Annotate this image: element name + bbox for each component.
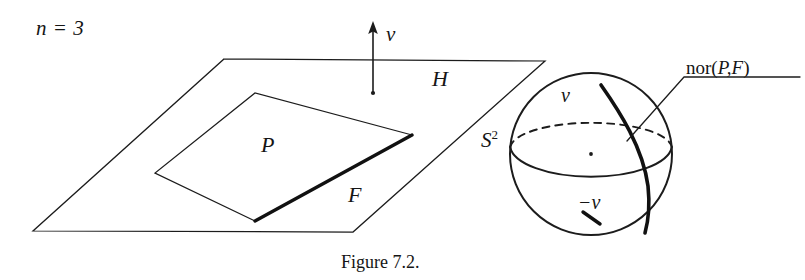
figure-drawing-canvas bbox=[0, 0, 805, 280]
normal-vector-label: v bbox=[386, 24, 395, 45]
sphere-label-exponent: 2 bbox=[492, 127, 499, 142]
figure-caption: Figure 7.2. bbox=[341, 253, 420, 271]
hyperplane-label: H bbox=[432, 68, 448, 90]
sphere-north-pole-label: v bbox=[561, 85, 570, 105]
sphere-south-pole-label: −v bbox=[578, 192, 600, 212]
figure-7-2: n = 3 v H P F S2 v −v nor(P,F) Figure 7.… bbox=[0, 0, 805, 280]
normal-cone-label: nor(P,F) bbox=[686, 58, 750, 77]
normal-cone-prefix: nor( bbox=[686, 57, 718, 78]
normal-cone-args: P,F bbox=[718, 57, 744, 78]
normal-cone-suffix: ) bbox=[743, 57, 749, 78]
sphere-label-base: S bbox=[481, 128, 492, 152]
polytope-label: P bbox=[261, 134, 274, 156]
normal-vector-basepoint bbox=[371, 91, 375, 95]
dimension-label: n = 3 bbox=[36, 18, 84, 39]
sphere-label: S2 bbox=[481, 128, 498, 151]
face-label: F bbox=[348, 184, 361, 206]
sphere-center-dot bbox=[589, 152, 593, 156]
